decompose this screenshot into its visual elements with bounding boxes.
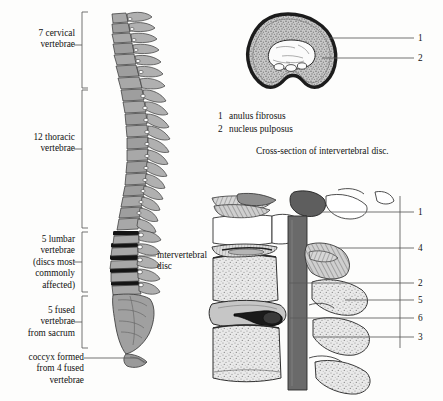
label-coccyx: coccyx formed from 4 fused vertebrae <box>0 352 84 386</box>
spine-lateral-illustration <box>110 12 170 367</box>
coccyx-group <box>124 354 147 367</box>
facet-upper <box>312 280 368 316</box>
spine-anatomy-figure: 7 cervical vertebrae 12 thoracic vertebr… <box>0 0 443 401</box>
callout-sag-4: 4 <box>418 243 423 253</box>
callout-cs-1: 1 <box>418 33 423 43</box>
legend-item-2: 2nucleus pulposus <box>218 124 293 136</box>
callout-cs-2: 2 <box>418 53 423 63</box>
disc-cross-section-illustration <box>248 14 336 87</box>
label-sacrum: 5 fused vertebrae from sacrum <box>0 305 75 339</box>
vertebral-body-lower <box>213 325 281 382</box>
illustration-layer <box>0 0 443 401</box>
bracket-cervical <box>82 12 88 88</box>
callout-sag-1: 1 <box>418 207 423 217</box>
cervical-vertebrae-group <box>112 12 165 89</box>
spinal-cord-band <box>288 216 307 390</box>
callout-sag-5: 5 <box>418 295 423 305</box>
cross-section-caption: Cross-section of intervertebral disc. <box>256 146 389 156</box>
herniated-disc <box>209 300 286 327</box>
callout-sag-2: 2 <box>418 278 423 288</box>
callout-sag-3: 3 <box>418 332 423 342</box>
bracket-sacrum <box>82 296 88 348</box>
legend-term-1: anulus fibrosus <box>229 111 286 121</box>
legend-item-1: 1anulus fibrosus <box>218 111 286 123</box>
bracket-lumbar <box>82 232 88 292</box>
legend-term-2: nucleus pulposus <box>229 124 293 134</box>
label-intervertebral-disc: intervertebral disc <box>157 250 237 273</box>
callout-sag-6: 6 <box>418 313 423 323</box>
legend-number-1: 1 <box>218 111 229 123</box>
legend-number-2: 2 <box>218 124 229 136</box>
bracket-thoracic <box>82 90 88 228</box>
sacrum-group <box>113 294 154 354</box>
label-lumbar: 5 lumbar vertebrae (discs most commonly … <box>0 234 75 291</box>
thoracic-vertebrae-group <box>117 89 170 233</box>
spinous-process-top <box>290 191 326 217</box>
sagittal-section-illustration <box>209 189 394 395</box>
label-thoracic: 12 thoracic vertebrae <box>0 132 75 155</box>
facet-lower <box>313 318 369 356</box>
lumbar-vertebrae-group <box>110 231 161 295</box>
label-cervical: 7 cervical vertebrae <box>0 28 75 51</box>
